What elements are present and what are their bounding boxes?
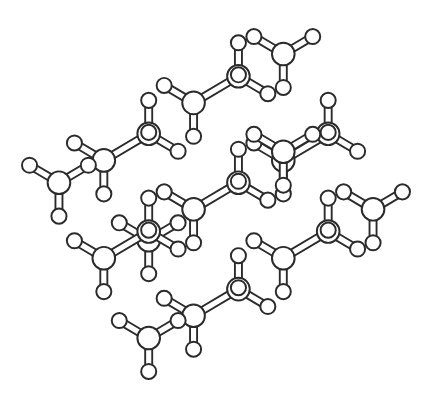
atom-terminal-hydrogen xyxy=(141,191,156,206)
atom-terminal-hydrogen xyxy=(157,184,172,199)
atom-terminal-hydrogen xyxy=(276,178,291,193)
atom-terminal-hydrogen xyxy=(141,266,156,281)
atom-heavy xyxy=(272,43,295,66)
atom-terminal-hydrogen xyxy=(96,284,111,299)
atom-terminal-hydrogen xyxy=(51,209,66,224)
atom-terminal-hydrogen xyxy=(141,364,156,379)
atom-terminal-hydrogen xyxy=(186,235,201,250)
atom-terminal-hydrogen xyxy=(96,186,111,201)
atom-terminal-hydrogen xyxy=(22,158,37,173)
atom-terminal-hydrogen xyxy=(260,193,275,208)
atom-terminal-hydrogen xyxy=(321,125,336,140)
figure-root: Hydrogen-terminated diamond-cubic nanocl… xyxy=(0,0,429,408)
atom-terminal-hydrogen xyxy=(231,35,246,50)
atom-terminal-hydrogen xyxy=(246,233,261,248)
atom-terminal-hydrogen xyxy=(231,142,246,157)
atom-terminal-hydrogen xyxy=(246,29,261,44)
atom-terminal-hydrogen xyxy=(141,125,156,140)
atom-terminal-hydrogen xyxy=(305,127,320,142)
atom-heavy xyxy=(272,140,295,163)
atom-terminal-hydrogen xyxy=(365,235,380,250)
atom-terminal-hydrogen xyxy=(231,280,246,295)
atom-terminal-hydrogen xyxy=(276,80,291,95)
atom-terminal-hydrogen xyxy=(276,284,291,299)
atom-terminal-hydrogen xyxy=(157,291,172,306)
atom-terminal-hydrogen xyxy=(336,184,351,199)
atom-terminal-hydrogen xyxy=(305,29,320,44)
atom-terminal-hydrogen xyxy=(67,135,82,150)
nanocluster-structure-diagram: Hydrogen-terminated diamond-cubic nanocl… xyxy=(0,0,429,408)
atom-terminal-hydrogen xyxy=(260,86,275,101)
atom-terminal-hydrogen xyxy=(186,129,201,144)
atom-terminal-hydrogen xyxy=(321,191,336,206)
atom-terminal-hydrogen xyxy=(321,93,336,108)
atom-heavy xyxy=(182,198,205,221)
atom-terminal-hydrogen xyxy=(186,342,201,357)
atom-terminal-hydrogen xyxy=(141,223,156,238)
atom-terminal-hydrogen xyxy=(67,233,82,248)
atom-terminal-hydrogen xyxy=(81,158,96,173)
atom-terminal-hydrogen xyxy=(157,78,172,93)
atom-terminal-hydrogen xyxy=(231,67,246,82)
atom-terminal-hydrogen xyxy=(321,223,336,238)
atom-heavy xyxy=(48,171,71,194)
atom-terminal-hydrogen xyxy=(171,215,186,230)
atom-terminal-hydrogen xyxy=(141,93,156,108)
atom-terminal-hydrogen xyxy=(395,184,410,199)
atom-terminal-hydrogen xyxy=(231,248,246,263)
atom-terminal-hydrogen xyxy=(231,174,246,189)
atom-terminal-hydrogen xyxy=(171,313,186,328)
atom-terminal-hydrogen xyxy=(350,144,365,159)
atom-heavy xyxy=(272,247,295,270)
atom-terminal-hydrogen xyxy=(112,215,127,230)
atom-terminal-hydrogen xyxy=(246,127,261,142)
atom-heavy xyxy=(93,247,116,270)
atom-terminal-hydrogen xyxy=(171,241,186,256)
atom-terminal-hydrogen xyxy=(112,313,127,328)
atom-heavy xyxy=(137,327,160,350)
atom-terminal-hydrogen xyxy=(171,144,186,159)
atom-heavy xyxy=(362,198,385,221)
atom-terminal-hydrogen xyxy=(260,299,275,314)
atom-terminal-hydrogen xyxy=(350,241,365,256)
atom-heavy xyxy=(182,92,205,115)
